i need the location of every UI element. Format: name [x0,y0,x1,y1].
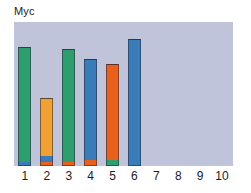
bar-5[interactable] [106,64,119,166]
x-tick-label-10: 10 [215,168,228,184]
chart-figure: Myc 12345678910 [0,0,251,193]
bar-4[interactable] [84,59,97,166]
bar-1[interactable] [18,46,31,166]
bar-segment-orange [106,64,119,160]
x-tick-label-6: 6 [131,168,138,184]
x-tick-label-5: 5 [109,168,116,184]
x-tick-label-9: 9 [197,168,204,184]
bar-6[interactable] [128,39,141,166]
bar-2[interactable] [40,98,53,166]
x-tick-label-4: 4 [87,168,94,184]
bar-3[interactable] [62,49,75,166]
bar-segment-blue [18,162,31,166]
bar-segment-orange [62,162,75,166]
chart-title: Myc [14,5,35,18]
bar-segment-green [106,160,119,166]
x-axis-tick-labels: 12345678910 [14,168,233,190]
bar-segment-orange [40,162,53,166]
bar-segment-amber [40,98,53,156]
x-tick-label-3: 3 [65,168,72,184]
x-tick-label-1: 1 [22,168,29,184]
bar-series-layer [14,22,233,166]
bar-segment-orange [84,160,97,166]
plot-area [14,22,233,166]
bar-segment-green [62,49,75,161]
x-tick-label-2: 2 [44,168,51,184]
x-tick-label-8: 8 [175,168,182,184]
bar-segment-blue [84,59,97,160]
bar-segment-green [18,47,31,162]
x-tick-label-7: 7 [153,168,160,184]
bar-segment-blue [128,39,141,166]
